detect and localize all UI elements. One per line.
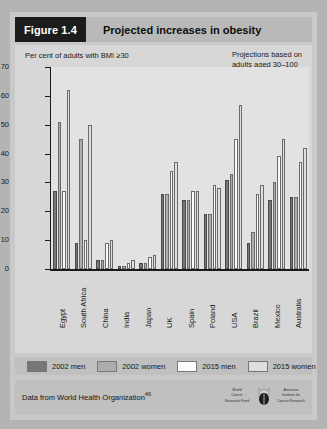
bar bbox=[268, 200, 272, 269]
legend-swatch-icon bbox=[97, 361, 117, 372]
figure-footer: Data from World Health Organization46 Wo… bbox=[15, 380, 312, 415]
figure-card: Figure 1.4 Projected increases in obesit… bbox=[10, 12, 317, 420]
legend-item: 2002 men bbox=[27, 361, 85, 372]
x-axis-label: India bbox=[122, 276, 131, 328]
bar bbox=[225, 180, 229, 269]
figure-header: Figure 1.4 Projected increases in obesit… bbox=[15, 17, 312, 42]
bar bbox=[165, 194, 169, 269]
y-axis-tick-label: 50 bbox=[1, 120, 9, 129]
bar-group bbox=[159, 67, 181, 269]
bar bbox=[251, 232, 255, 270]
legend-item: 2002 women bbox=[97, 361, 165, 372]
bar bbox=[53, 191, 57, 269]
y-axis-tick bbox=[45, 182, 50, 183]
bar bbox=[96, 260, 100, 269]
bar bbox=[247, 243, 251, 269]
figure-number: Figure 1.4 bbox=[15, 17, 86, 42]
bar-group bbox=[73, 67, 95, 269]
y-axis-tick bbox=[45, 67, 50, 68]
x-axis-label: Brazil bbox=[251, 276, 260, 328]
figure-title: Projected increases in obesity bbox=[86, 17, 312, 42]
bar-group bbox=[288, 67, 310, 269]
wcrf-aicr-logo-icon bbox=[255, 386, 273, 406]
bar bbox=[217, 188, 221, 269]
bar bbox=[256, 194, 260, 269]
bar bbox=[75, 243, 79, 269]
bar-group bbox=[180, 67, 202, 269]
y-axis-tick bbox=[45, 125, 50, 126]
bar bbox=[84, 240, 88, 269]
bar-group bbox=[266, 67, 288, 269]
x-axis-label: Spain bbox=[187, 276, 196, 328]
bar bbox=[294, 197, 298, 269]
bar-group bbox=[137, 67, 159, 269]
bar bbox=[67, 90, 71, 269]
bar bbox=[122, 266, 126, 269]
y-axis-tick-label: 0 bbox=[5, 264, 9, 273]
bar bbox=[239, 105, 243, 269]
bar bbox=[131, 260, 135, 269]
legend-label: 2002 men bbox=[52, 362, 85, 371]
bar bbox=[88, 125, 92, 269]
x-axis-line bbox=[50, 269, 309, 271]
bar bbox=[230, 174, 234, 269]
bar-group bbox=[51, 67, 73, 269]
x-axis-label: South Africa bbox=[79, 276, 88, 328]
chart-legend: 2002 men2002 women2015 men2015 women bbox=[15, 357, 312, 375]
legend-label: 2002 women bbox=[122, 362, 165, 371]
bar bbox=[187, 200, 191, 269]
y-axis-tick-label: 60 bbox=[1, 91, 9, 100]
bar bbox=[182, 200, 186, 269]
bar-group bbox=[116, 67, 138, 269]
bar bbox=[174, 162, 178, 269]
legend-swatch-icon bbox=[177, 361, 197, 372]
bar bbox=[260, 185, 264, 269]
legend-item: 2015 women bbox=[248, 361, 316, 372]
bar bbox=[110, 240, 114, 269]
y-axis-tick-label: 40 bbox=[1, 149, 9, 158]
x-axis-label: Mexico bbox=[273, 276, 282, 328]
y-axis-tick bbox=[45, 154, 50, 155]
x-axis-label: China bbox=[101, 276, 110, 328]
bar bbox=[290, 197, 294, 269]
bar-group bbox=[94, 67, 116, 269]
chart-panel: Per cent of adults with BMI ≥30 Projecti… bbox=[15, 45, 312, 353]
x-axis-label: Egypt bbox=[58, 276, 67, 328]
bar bbox=[234, 139, 238, 269]
bar bbox=[101, 260, 105, 269]
bar bbox=[62, 191, 66, 269]
bar bbox=[277, 156, 281, 269]
y-axis-tick bbox=[45, 96, 50, 97]
bar bbox=[105, 243, 109, 269]
y-axis-tick-label: 10 bbox=[1, 235, 9, 244]
bar bbox=[118, 266, 122, 269]
bar bbox=[303, 148, 307, 269]
bar bbox=[191, 191, 195, 269]
x-axis-label: Japan bbox=[144, 276, 153, 328]
source-reference: 46 bbox=[145, 391, 151, 397]
y-axis-caption: Per cent of adults with BMI ≥30 bbox=[25, 51, 129, 60]
y-axis-tick bbox=[45, 211, 50, 212]
bar bbox=[299, 162, 303, 269]
bar bbox=[79, 139, 83, 269]
bar-group bbox=[223, 67, 245, 269]
bar bbox=[153, 255, 157, 269]
y-axis-tick-label: 20 bbox=[1, 206, 9, 215]
x-axis-label: UK bbox=[165, 276, 174, 328]
logo-right-text: AmericanInstitute forCancer Research bbox=[276, 388, 306, 404]
legend-item: 2015 men bbox=[177, 361, 235, 372]
legend-label: 2015 men bbox=[202, 362, 235, 371]
bar bbox=[282, 139, 286, 269]
bar bbox=[161, 194, 165, 269]
bar bbox=[148, 257, 152, 269]
y-axis-tick-label: 70 bbox=[1, 62, 9, 71]
bar bbox=[204, 214, 208, 269]
x-axis-label: Poland bbox=[208, 276, 217, 328]
bar-group bbox=[202, 67, 224, 269]
y-axis-tick bbox=[45, 240, 50, 241]
logo-left-text: WorldCancerResearch Fund bbox=[222, 388, 252, 404]
legend-swatch-icon bbox=[27, 361, 47, 372]
bar-group bbox=[245, 67, 267, 269]
x-axis-label: USA bbox=[230, 276, 239, 328]
bar bbox=[208, 214, 212, 269]
